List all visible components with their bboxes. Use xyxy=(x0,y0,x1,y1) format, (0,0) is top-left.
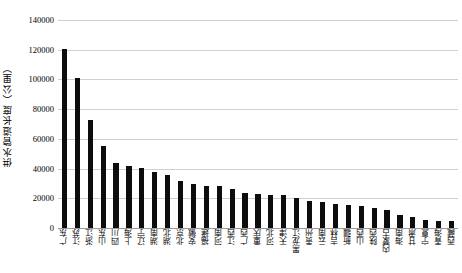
x-tick-label: 西藏 xyxy=(448,229,456,245)
x-tick-label: 湖北 xyxy=(164,229,172,245)
bar xyxy=(281,195,286,228)
x-tick-label: 安徽 xyxy=(189,229,197,245)
x-tick-label: 宁夏 xyxy=(422,229,430,245)
y-tick-label: 100000 xyxy=(29,75,55,84)
y-axis-tick-labels: 020000400006000080000100000120000140000 xyxy=(16,0,58,240)
x-tick-label: 青海 xyxy=(435,229,443,245)
bar xyxy=(268,195,273,228)
y-tick-label: 20000 xyxy=(33,194,54,203)
bar xyxy=(165,175,170,228)
x-tick-label: 浙江 xyxy=(86,229,94,245)
x-tick-label: 天津 xyxy=(280,229,288,245)
x-tick-label: 福建 xyxy=(202,229,210,245)
bar xyxy=(320,202,325,228)
x-tick-label: 广东 xyxy=(60,229,68,245)
bar xyxy=(384,210,389,228)
x-tick-label: 黑龙江 xyxy=(293,229,301,253)
x-tick-label: 海南 xyxy=(396,229,404,245)
x-tick-label: 贵州 xyxy=(306,229,314,245)
bar xyxy=(436,221,441,228)
bar xyxy=(397,215,402,228)
x-tick-label: 重庆 xyxy=(254,229,262,245)
bar xyxy=(294,198,299,228)
plot-area xyxy=(58,20,458,228)
bar xyxy=(255,194,260,228)
x-tick-label: 四川 xyxy=(112,229,120,245)
y-tick-label: 80000 xyxy=(33,105,54,114)
x-tick-label: 上海 xyxy=(125,229,133,245)
x-tick-label: 云南 xyxy=(319,229,327,245)
bar xyxy=(423,220,428,228)
bar-chart: 供水管道长度（公里） 02000040000600008000010000012… xyxy=(0,0,462,273)
y-tick-label: 0 xyxy=(50,224,54,233)
x-tick-label: 广西 xyxy=(241,229,249,245)
bar xyxy=(126,166,131,228)
y-tick-label: 40000 xyxy=(33,164,54,173)
x-tick-label: 山东 xyxy=(99,229,107,245)
bar xyxy=(139,168,144,228)
x-tick-label: 甘肃 xyxy=(409,229,417,245)
bar xyxy=(191,184,196,228)
x-tick-label: 辽宁 xyxy=(138,229,146,245)
x-tick-label: 江西 xyxy=(228,229,236,245)
bar xyxy=(242,193,247,228)
y-axis-title: 供水管道长度（公里） xyxy=(0,0,16,228)
bar xyxy=(359,206,364,228)
x-tick-label: 吉林 xyxy=(331,229,339,245)
bar xyxy=(307,201,312,228)
x-tick-label: 山西 xyxy=(357,229,365,245)
x-tick-label: 新疆 xyxy=(344,229,352,245)
bar xyxy=(152,172,157,228)
bar xyxy=(333,204,338,229)
bar xyxy=(113,163,118,228)
bar xyxy=(346,205,351,228)
x-tick-label: 湖南 xyxy=(151,229,159,245)
bar xyxy=(217,186,222,228)
bar xyxy=(449,221,454,228)
x-tick-label: 陕西 xyxy=(370,229,378,245)
y-tick-label: 120000 xyxy=(29,45,55,54)
bar xyxy=(204,186,209,228)
bar xyxy=(75,78,80,228)
bar xyxy=(88,120,93,228)
bar xyxy=(178,181,183,228)
x-tick-label: 内蒙古 xyxy=(383,229,391,253)
bars-group xyxy=(58,20,458,228)
bar xyxy=(372,208,377,228)
bar xyxy=(62,49,67,228)
y-tick-label: 140000 xyxy=(29,16,55,25)
x-tick-label: 河北 xyxy=(267,229,275,245)
bar xyxy=(101,146,106,228)
x-tick-label: 江苏 xyxy=(73,229,81,245)
y-axis-title-text: 供水管道长度（公里） xyxy=(1,62,15,167)
bar xyxy=(410,217,415,228)
x-axis-tick-labels: 广东江苏浙江山东四川上海辽宁湖南湖北北京安徽福建河南江西广西重庆河北天津黑龙江贵… xyxy=(58,229,458,273)
x-tick-label: 河南 xyxy=(215,229,223,245)
y-tick-label: 60000 xyxy=(33,135,54,144)
bar xyxy=(230,189,235,228)
x-tick-label: 北京 xyxy=(177,229,185,245)
